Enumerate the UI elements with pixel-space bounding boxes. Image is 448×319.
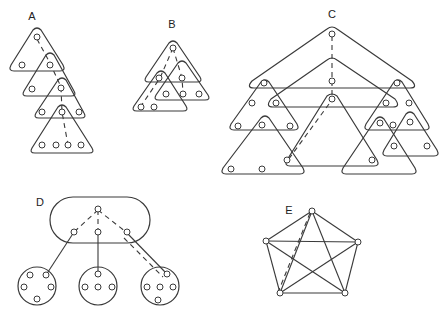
node	[156, 75, 162, 81]
path-b2	[173, 48, 183, 93]
node	[259, 122, 265, 128]
node	[163, 91, 169, 97]
node	[48, 284, 54, 290]
node	[180, 91, 186, 97]
edge-root-right	[98, 210, 126, 232]
node	[329, 96, 335, 102]
triangle-c-center	[286, 94, 378, 166]
node	[263, 238, 269, 244]
panel-b: B	[133, 18, 209, 111]
edge-right-dashed	[124, 238, 163, 277]
node	[58, 85, 64, 91]
node	[406, 100, 412, 106]
node	[196, 91, 202, 97]
node	[19, 62, 25, 68]
node	[259, 166, 265, 172]
edge	[280, 211, 312, 293]
node	[369, 157, 375, 163]
node	[394, 80, 400, 86]
node	[155, 297, 161, 303]
node	[277, 290, 283, 296]
node	[21, 284, 27, 290]
node	[27, 272, 33, 278]
node	[151, 104, 157, 110]
edge	[266, 241, 358, 242]
panel-e-label: E	[285, 204, 292, 216]
node	[284, 157, 290, 163]
node	[391, 143, 397, 149]
node	[424, 143, 430, 149]
node	[109, 284, 115, 290]
path-a	[37, 39, 68, 145]
node	[170, 284, 176, 290]
node	[273, 100, 279, 106]
panel-a-label: A	[28, 10, 36, 22]
node	[78, 142, 84, 148]
node	[249, 100, 255, 106]
node	[43, 272, 49, 278]
node	[157, 284, 163, 290]
node	[164, 271, 170, 277]
node	[34, 296, 40, 302]
node	[95, 271, 101, 277]
edge-root-left	[74, 210, 98, 232]
edge	[312, 211, 345, 293]
path-e	[279, 213, 310, 290]
node	[82, 284, 88, 290]
node	[261, 80, 267, 86]
edge-right-cluster	[127, 233, 167, 274]
panel-b-label: B	[168, 18, 175, 30]
panel-e: E	[263, 204, 361, 296]
node	[76, 109, 82, 115]
node	[138, 104, 144, 110]
diagram-canvas: A B C	[0, 0, 448, 319]
path-c-diag	[288, 104, 329, 160]
panel-a: A	[10, 10, 93, 153]
node	[47, 62, 53, 68]
node	[179, 75, 185, 81]
node	[53, 142, 59, 148]
node	[34, 34, 40, 40]
node	[59, 109, 65, 115]
pill-container	[50, 197, 150, 243]
node	[71, 229, 77, 235]
node	[377, 120, 383, 126]
node	[95, 229, 101, 235]
node	[390, 122, 396, 128]
node	[39, 142, 45, 148]
node	[39, 109, 45, 115]
panel-d-label: D	[36, 196, 44, 208]
node	[355, 239, 361, 245]
edge	[280, 242, 358, 293]
node	[329, 78, 335, 84]
node	[235, 123, 241, 129]
node	[287, 123, 293, 129]
panel-d: D	[18, 196, 179, 305]
node	[329, 31, 335, 37]
node	[342, 290, 348, 296]
node	[228, 166, 234, 172]
node	[29, 86, 35, 92]
node	[124, 229, 130, 235]
node	[65, 142, 71, 148]
node	[309, 208, 315, 214]
node	[407, 119, 413, 125]
node	[95, 206, 101, 212]
node	[383, 100, 389, 106]
edge	[312, 211, 358, 242]
node	[170, 45, 176, 51]
node	[144, 284, 150, 290]
panel-c: C	[222, 8, 438, 174]
panel-c-label: C	[328, 8, 336, 20]
node	[95, 284, 101, 290]
